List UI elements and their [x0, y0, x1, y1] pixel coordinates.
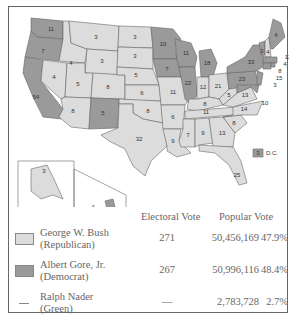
- legend-row-gore: Albert Gore, Jr. (Democrat) 267 50,996,1…: [9, 259, 289, 289]
- electoral-vote: 271: [152, 232, 182, 243]
- candidate-name: Albert Gore, Jr.: [40, 259, 105, 271]
- ev-label-MA: 12: [285, 54, 289, 60]
- state-NY: [227, 45, 265, 73]
- inset-frame-hawaii: [74, 169, 126, 207]
- legend-row-nader: Ralph Nader (Green) — 2,783,728 2.7%: [9, 291, 289, 321]
- no-swatch-dash: [19, 303, 29, 304]
- ev-label-NC: 14: [241, 106, 248, 112]
- ev-label-WI: 11: [183, 50, 190, 56]
- ev-label-TN: 11: [203, 109, 210, 115]
- state-AK: [31, 165, 63, 199]
- ev-label-FL: 25: [234, 172, 241, 178]
- candidate-party: (Democrat): [40, 271, 88, 283]
- popular-percent: 2.7%: [259, 296, 288, 307]
- dc-label: D.C.: [266, 150, 278, 156]
- state-CT: [263, 63, 271, 69]
- candidate-name: Ralph Nader: [40, 291, 93, 303]
- ev-label-DE: 3: [273, 82, 277, 88]
- ev-label-TX: 32: [136, 136, 143, 142]
- ev-label-OH: 21: [215, 83, 222, 89]
- state-NJ: [257, 71, 263, 85]
- popular-vote: 50,456,169: [207, 232, 259, 243]
- democrat-swatch: [15, 265, 34, 277]
- electoral-vote: 267: [152, 264, 182, 275]
- map-figure-frame: 11 7 54 4 4 3 3 5 8 8 5 3 3 5 6 8 32 10 …: [8, 6, 288, 313]
- header-popular-vote: Popular Vote: [219, 211, 273, 222]
- state-AZ: [59, 97, 91, 129]
- state-FL: [199, 145, 247, 185]
- us-electoral-map: 11 7 54 4 4 3 3 5 8 8 5 3 3 5 6 8 32 10 …: [9, 7, 289, 207]
- header-electoral-vote: Electoral Vote: [141, 211, 200, 222]
- electoral-vote: —: [152, 296, 182, 307]
- state-RI: [271, 63, 275, 67]
- ev-label-MN: 10: [160, 41, 167, 47]
- ev-label-IL: 22: [185, 80, 192, 86]
- popular-vote: 50,996,116: [207, 264, 259, 275]
- popular-percent: 48.4%: [259, 264, 288, 275]
- popular-vote: 2,783,728: [207, 296, 259, 307]
- candidate-party: (Republican): [40, 239, 95, 251]
- ev-label-MD: 10: [262, 100, 269, 106]
- ev-label-NJ: 15: [276, 75, 283, 81]
- ev-label-GA: 13: [219, 130, 226, 136]
- republican-swatch: [15, 233, 34, 245]
- ev-label-NY: 33: [248, 59, 255, 65]
- ev-label-CT: 8: [278, 68, 282, 74]
- ev-label-VA: 13: [242, 92, 249, 98]
- ev-label-MO: 11: [170, 89, 177, 95]
- ev-label-WA: 11: [48, 26, 55, 32]
- ev-label-PA: 23: [239, 76, 246, 82]
- legend-row-bush: George W. Bush (Republican) 271 50,456,1…: [9, 227, 289, 257]
- state-HI: [105, 199, 115, 207]
- candidate-party: (Green): [40, 303, 73, 315]
- ev-label-RI: 4: [283, 61, 287, 67]
- candidate-name: George W. Bush: [40, 227, 109, 239]
- ev-label-IN: 12: [200, 84, 207, 90]
- popular-percent: 47.9%: [259, 232, 288, 243]
- state-MA: [263, 57, 277, 63]
- ev-label-CA: 54: [33, 94, 40, 100]
- ev-label-MI: 18: [204, 60, 211, 66]
- ev-label-HI: 4: [91, 204, 95, 207]
